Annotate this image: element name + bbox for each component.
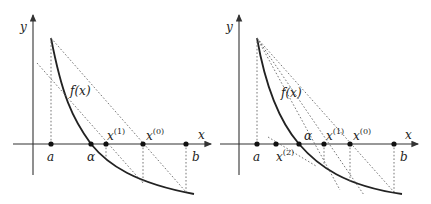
secant-a-x0 <box>257 38 364 195</box>
point-alpha <box>296 141 301 146</box>
point-x0 <box>347 141 352 146</box>
function-label: f(x) <box>280 86 302 100</box>
point-alpha <box>88 141 93 146</box>
x-axis-label: x <box>198 128 205 142</box>
secant-a-x1 <box>257 38 340 190</box>
point-x2 <box>273 141 278 146</box>
label-a: a <box>47 150 54 164</box>
function-label: f(x) <box>69 84 91 98</box>
label-x2: x(2) <box>276 148 294 164</box>
point-b <box>183 141 188 146</box>
right-panel: y x f(x) a x(2) α x(1) x(0) b <box>220 15 418 195</box>
point-b <box>391 141 396 146</box>
left-panel: y x f(x) a α x(1) x(0) b <box>13 15 211 194</box>
label-x0: x(0) <box>353 127 371 143</box>
secant-2 <box>37 63 143 183</box>
label-b: b <box>400 150 408 164</box>
label-a: a <box>253 150 260 164</box>
function-curve <box>51 38 194 194</box>
label-x0: x(0) <box>146 127 164 143</box>
function-curve <box>257 38 402 194</box>
label-b: b <box>192 150 200 164</box>
secant-a-b <box>257 38 394 192</box>
y-axis-label: y <box>19 20 27 34</box>
point-a <box>254 141 259 146</box>
point-a <box>48 141 53 146</box>
label-alpha: α <box>304 129 312 143</box>
label-alpha: α <box>87 150 95 164</box>
label-x1: x(1) <box>107 127 125 143</box>
y-axis-label: y <box>225 20 233 34</box>
label-x1: x(1) <box>326 127 344 143</box>
point-x0 <box>140 141 145 146</box>
x-axis-label: x <box>405 128 412 142</box>
diagram-canvas: y x f(x) a α x(1) x(0) b y x <box>0 0 431 204</box>
